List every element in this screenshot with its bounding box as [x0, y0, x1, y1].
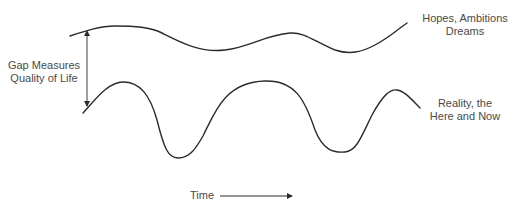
reality-curve: [83, 81, 420, 158]
hopes-label-line-2: Dreams: [415, 25, 515, 38]
reality-label-line-2: Here and Now: [415, 110, 515, 123]
time-axis-label: Time: [190, 189, 220, 202]
hopes-ambitions-label: Hopes, Ambitions Dreams: [415, 12, 515, 38]
hopes-label-line-1: Hopes, Ambitions: [415, 12, 515, 25]
gap-label-line-1: Gap Measures: [0, 59, 88, 72]
reality-label: Reality, the Here and Now: [415, 97, 515, 123]
gap-label-line-2: Quality of Life: [0, 72, 88, 85]
hopes-ambitions-curve: [70, 23, 407, 52]
gap-label: Gap Measures Quality of Life: [0, 59, 88, 85]
reality-label-line-1: Reality, the: [415, 97, 515, 110]
